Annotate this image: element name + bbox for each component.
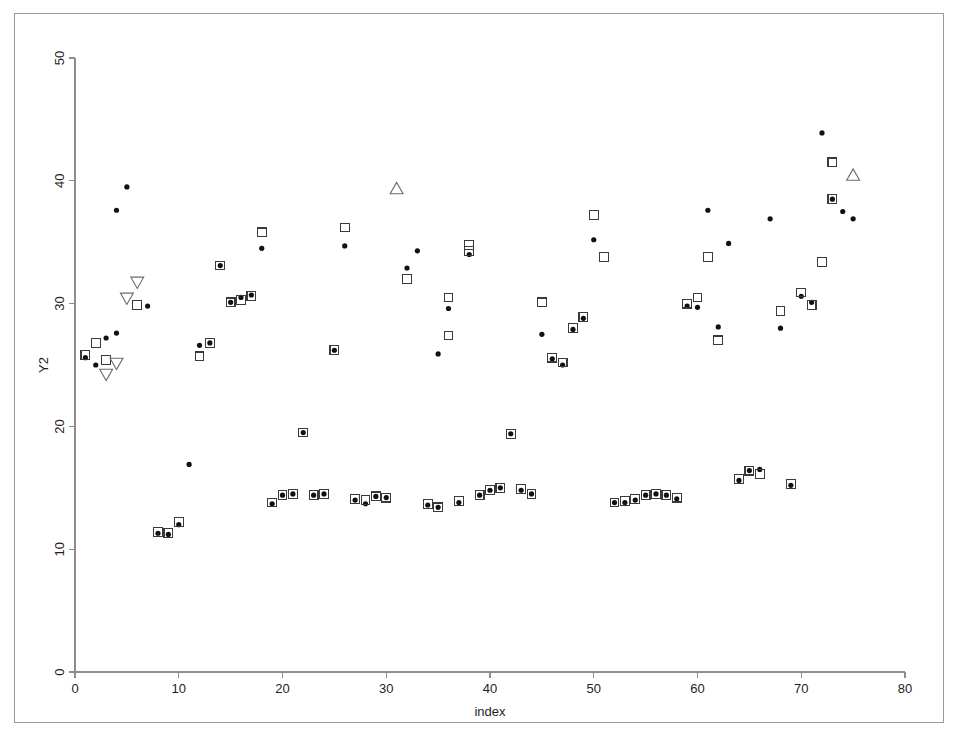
- point-dot: [415, 248, 420, 253]
- point-dot: [705, 208, 710, 213]
- point-dot: [187, 462, 192, 467]
- point-dot: [114, 330, 119, 335]
- point-dot: [653, 491, 658, 496]
- y-tick-label: 20: [52, 419, 67, 433]
- y-tick-label: 40: [52, 174, 67, 188]
- point-square: [444, 293, 453, 302]
- point-dot: [830, 197, 835, 202]
- point-dot: [456, 500, 461, 505]
- point-dot: [591, 237, 596, 242]
- point-square: [714, 336, 723, 345]
- point-dot: [93, 362, 98, 367]
- point-square: [600, 253, 609, 262]
- axes-layer: [69, 58, 905, 678]
- x-tick-label: 50: [587, 681, 601, 696]
- x-tick-label: 70: [794, 681, 808, 696]
- y-tick-label: 10: [52, 542, 67, 556]
- point-dot: [778, 326, 783, 331]
- point-dot: [404, 265, 409, 270]
- point-dot: [736, 478, 741, 483]
- point-square: [340, 223, 349, 232]
- x-tick-label: 0: [71, 681, 78, 696]
- point-dot: [332, 348, 337, 353]
- point-dot: [747, 468, 752, 473]
- point-dot: [425, 502, 430, 507]
- point-dot: [539, 332, 544, 337]
- point-dot: [249, 292, 254, 297]
- x-tick-label: 80: [898, 681, 912, 696]
- axis-labels-layer: 0102030405060708001020304050indexY2: [36, 51, 912, 719]
- point-square: [776, 307, 785, 316]
- point-dot: [529, 491, 534, 496]
- point-dot: [477, 493, 482, 498]
- point-dot: [768, 216, 773, 221]
- point-dot: [612, 500, 617, 505]
- point-dot: [664, 493, 669, 498]
- point-dot: [373, 494, 378, 499]
- point-dot: [643, 493, 648, 498]
- y-tick-label: 30: [52, 296, 67, 310]
- point-square: [133, 300, 142, 309]
- point-dot: [819, 130, 824, 135]
- series-triangle-down: [100, 277, 144, 380]
- point-dot: [166, 532, 171, 537]
- point-dot: [799, 294, 804, 299]
- x-axis-title: index: [474, 704, 506, 719]
- point-dot: [633, 497, 638, 502]
- point-dot: [145, 303, 150, 308]
- point-dot: [342, 243, 347, 248]
- point-dot: [353, 497, 358, 502]
- point-dot: [290, 491, 295, 496]
- y-tick-label: 0: [52, 668, 67, 675]
- point-dot: [570, 327, 575, 332]
- x-tick-label: 60: [690, 681, 704, 696]
- point-triangle-up: [847, 169, 860, 180]
- point-dot: [716, 324, 721, 329]
- point-dot: [622, 500, 627, 505]
- point-dot: [695, 305, 700, 310]
- point-dot: [436, 505, 441, 510]
- point-triangle-down: [110, 358, 123, 369]
- point-triangle-up: [390, 182, 403, 193]
- point-dot: [218, 263, 223, 268]
- series-dot: [83, 130, 856, 537]
- point-square: [465, 240, 474, 249]
- point-dot: [467, 252, 472, 257]
- point-dot: [114, 208, 119, 213]
- point-dot: [280, 493, 285, 498]
- point-dot: [581, 316, 586, 321]
- point-dot: [124, 184, 129, 189]
- y-tick-label: 50: [52, 51, 67, 65]
- point-dot: [363, 501, 368, 506]
- point-square: [403, 275, 412, 284]
- x-tick-label: 20: [275, 681, 289, 696]
- point-dot: [674, 496, 679, 501]
- data-points-layer: [81, 130, 860, 537]
- y-axis-title: Y2: [36, 357, 51, 373]
- point-square: [693, 293, 702, 302]
- point-dot: [207, 340, 212, 345]
- point-dot: [550, 356, 555, 361]
- point-square: [257, 228, 266, 237]
- point-dot: [311, 493, 316, 498]
- series-square: [81, 158, 837, 538]
- point-square: [444, 331, 453, 340]
- series-triangle-up: [390, 169, 859, 194]
- point-dot: [508, 431, 513, 436]
- x-tick-label: 30: [379, 681, 393, 696]
- point-triangle-down: [100, 369, 113, 380]
- point-dot: [840, 209, 845, 214]
- point-dot: [436, 351, 441, 356]
- point-dot: [519, 488, 524, 493]
- point-dot: [197, 343, 202, 348]
- point-square: [828, 158, 837, 167]
- point-square: [102, 356, 111, 365]
- x-tick-label: 40: [483, 681, 497, 696]
- point-triangle-down: [131, 277, 144, 288]
- point-dot: [321, 491, 326, 496]
- point-triangle-down: [120, 293, 133, 304]
- scatter-plot: 0102030405060708001020304050indexY2: [0, 0, 960, 740]
- point-dot: [384, 495, 389, 500]
- point-dot: [259, 246, 264, 251]
- point-dot: [104, 335, 109, 340]
